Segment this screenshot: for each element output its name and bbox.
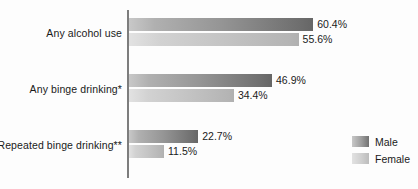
category-label: Any alcohol use <box>46 27 122 39</box>
category-axis-line <box>127 10 129 178</box>
bar-male <box>129 74 272 87</box>
category-label: Any binge drinking* <box>30 83 122 95</box>
legend: Male Female <box>352 134 410 168</box>
legend-item-male: Male <box>352 134 410 149</box>
bar-value-label: 46.9% <box>276 73 306 87</box>
bar-male <box>129 130 198 143</box>
bar-value-label: 34.4% <box>238 88 268 102</box>
bar-value-label: 55.6% <box>303 32 333 46</box>
bar-value-label: 22.7% <box>202 129 232 143</box>
bar-value-label: 60.4% <box>317 17 347 31</box>
category-label: Repeated binge drinking** <box>0 139 122 151</box>
legend-label: Male <box>375 136 398 148</box>
bar-female <box>129 33 299 46</box>
bar-chart: Any alcohol use 60.4% 55.6% Any binge dr… <box>0 0 418 189</box>
bar-female <box>129 145 164 158</box>
bar-female <box>129 89 234 102</box>
legend-swatch-icon <box>352 153 369 164</box>
bar-value-label: 11.5% <box>168 144 197 158</box>
legend-swatch-icon <box>352 136 369 147</box>
legend-item-female: Female <box>352 151 410 166</box>
bar-male <box>129 18 313 31</box>
legend-label: Female <box>375 153 410 165</box>
